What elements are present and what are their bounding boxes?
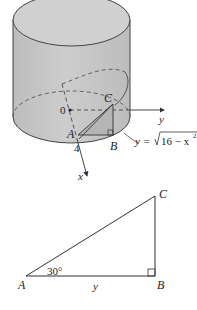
vertex-b-label: B [157, 278, 165, 292]
side-y-label: y [92, 280, 98, 292]
origin-label: 0 [60, 104, 66, 116]
equation-radicand: 16 − x [161, 135, 190, 147]
point-c-label: C [104, 91, 113, 105]
equation-prefix: y = [134, 135, 150, 147]
origin-point [68, 108, 71, 111]
right-triangle [26, 196, 155, 276]
right-angle-marker [148, 269, 155, 276]
point-a-label: A [66, 127, 75, 141]
cylinder-top-ellipse [13, 0, 130, 46]
point-b-label: B [110, 139, 118, 153]
vertex-a-label: A [17, 278, 26, 292]
vertex-c-label: C [159, 187, 168, 201]
angle-label: 30° [47, 265, 62, 277]
diagram-canvas: 0 C A B 4 x y y = 16 − x 2 A B C 30° y [0, 0, 197, 310]
equation-exponent: 2 [193, 132, 197, 140]
x-axis-label: x [77, 170, 83, 182]
curve-equation: y = 16 − x 2 [134, 132, 197, 147]
y-axis-label: y [158, 113, 164, 125]
tick-4-label: 4 [74, 142, 80, 154]
